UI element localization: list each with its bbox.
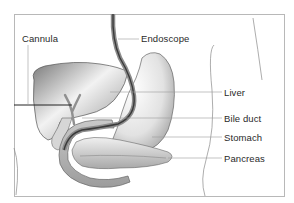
label-endoscope: Endoscope [141,33,189,44]
body-outline-top-right [253,18,262,80]
body-outline-left [14,148,18,195]
body-outline-right [203,45,214,196]
stomach-shape [110,53,174,153]
ercp-illustration [0,0,294,203]
label-bile-duct: Bile duct [224,113,261,124]
label-pancreas: Pancreas [224,153,265,164]
label-liver: Liver [224,87,245,98]
label-stomach: Stomach [224,132,262,143]
label-cannula: Cannula [22,33,58,44]
